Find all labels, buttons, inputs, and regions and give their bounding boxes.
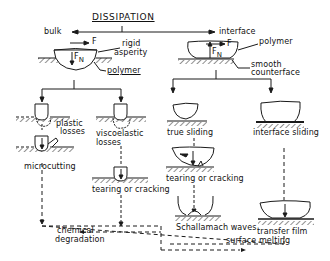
dissipation-diagram: DISSIPATION bulk interface F FN rigid as… [0,0,330,261]
arrow-head-interface-icon [209,30,215,34]
transfer-film-label: transfer film [257,228,308,236]
bulk-label: bulk [44,28,61,36]
arrow-head-bulk-icon [72,30,78,34]
interface-label: interface [219,28,256,36]
rigid-label: rigid [122,40,140,48]
surface-melting-label: surface melting [226,237,290,245]
bulk-normal-force-label: FN [74,53,84,64]
chemical-label: chemical [57,227,94,235]
schallamach-label: Schallamach waves [176,224,256,232]
tearing-bulk-sketch [92,167,148,226]
asperity-label: asperity [114,49,147,57]
interface-sliding-sketch [256,101,304,200]
interface-polymer-label: polymer [259,38,293,46]
microcutting-label: microcutting [24,163,76,171]
viscoelastic-losses-label: losses [96,139,121,147]
microcutting-sketch [16,136,74,224]
arrow-melting-icon [241,248,246,252]
true-sliding-label: true sliding [167,129,213,137]
counterface-label: counterface [251,69,300,77]
interface-tearing-label: tearing or cracking [166,175,244,183]
viscoelastic-label: viscoelastic [96,130,144,138]
bulk-polymer-label: polymer [107,67,141,75]
schallamach-waves-sketch [175,196,221,221]
degradation-label: degradation [55,236,105,244]
interface-force-label: F [227,40,232,48]
plastic-losses-label: losses [60,128,85,136]
bulk-force-label: F [92,38,97,46]
bulk-tearing-label: tearing or cracking [92,186,170,194]
diagram-title: DISSIPATION [92,13,155,21]
interface-normal-force-label: FN [212,48,222,59]
interface-sliding-label: interface sliding [253,129,319,137]
